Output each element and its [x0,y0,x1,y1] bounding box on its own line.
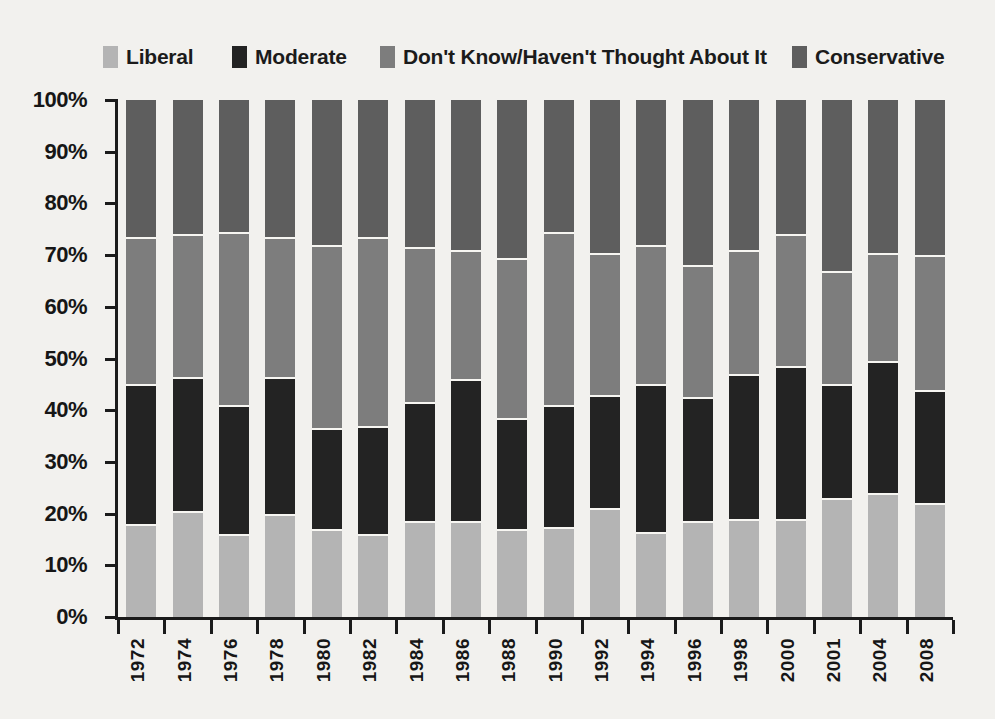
stacked-bar-2004 [868,100,898,617]
segment-moderate-2001 [822,384,852,498]
x-axis-tick [163,620,166,634]
y-axis-tick [105,616,118,619]
x-tick-label-2004: 2004 [869,638,891,682]
y-tick-label: 70% [44,242,87,268]
legend-item-don-t-know-haven-t-thought-about-it: Don't Know/Haven't Thought About It [380,43,767,71]
y-tick-label: 100% [33,87,87,113]
y-axis-tick [105,461,118,464]
x-tick-label-2008: 2008 [916,638,938,682]
legend-label: Moderate [255,45,347,69]
y-axis-tick [105,202,118,205]
stacked-bar-1972 [126,100,156,617]
stacked-bar-1990 [544,100,574,617]
stacked-bar-1980 [312,100,342,617]
bar-slot-2001 [814,100,860,617]
bar-slot-1986 [443,100,489,617]
x-tick-label-1984: 1984 [406,638,428,682]
segment-liberal-1972 [126,524,156,617]
segment-moderate-1976 [219,405,249,534]
segment-don-t-know-1992 [590,253,620,395]
stacked-bar-2008 [915,100,945,617]
segment-liberal-1982 [358,534,388,617]
x-tick-label-1990: 1990 [545,638,567,682]
segment-conservative-1990 [544,100,574,232]
stacked-bar-1976 [219,100,249,617]
y-tick-label: 10% [44,552,87,578]
segment-don-t-know-2004 [868,253,898,362]
bar-slot-1972 [118,100,164,617]
segment-liberal-1996 [683,521,713,617]
segment-conservative-2000 [776,100,806,234]
segment-conservative-1986 [451,100,481,250]
segment-moderate-1980 [312,428,342,529]
x-tick-label-1996: 1996 [684,638,706,682]
x-axis-labels: 1972197419761978198019821984198619881990… [115,638,950,708]
legend-swatch-icon [232,46,247,68]
bar-slot-1992 [582,100,628,617]
segment-conservative-1994 [636,100,666,245]
stacked-bar-2001 [822,100,852,617]
legend-swatch-icon [380,46,395,68]
x-axis-tick [303,620,306,634]
bar-slot-2004 [860,100,906,617]
stacked-bar-2000 [776,100,806,617]
segment-moderate-1982 [358,426,388,535]
segment-don-t-know-1974 [173,234,203,376]
x-axis-tick [813,620,816,634]
segment-liberal-1976 [219,534,249,617]
bar-slot-1998 [721,100,767,617]
segment-liberal-1994 [636,532,666,617]
segment-liberal-1974 [173,511,203,617]
segment-conservative-1982 [358,100,388,237]
segment-don-t-know-2008 [915,255,945,389]
x-axis-tick [256,620,259,634]
bar-slot-1994 [628,100,674,617]
segment-moderate-2004 [868,361,898,493]
y-axis-tick [105,306,118,309]
x-axis-tick [117,620,120,634]
y-axis-labels: 100%90%80%70%60%50%40%30%20%10%0% [0,100,101,617]
x-axis-tick [442,620,445,634]
segment-conservative-1996 [683,100,713,265]
bar-slot-1984 [396,100,442,617]
stacked-bar-1994 [636,100,666,617]
segment-liberal-1988 [497,529,527,617]
segment-don-t-know-2001 [822,271,852,385]
x-axis-tick [488,620,491,634]
y-axis-tick [105,254,118,257]
segment-conservative-1984 [405,100,435,247]
segment-don-t-know-2000 [776,234,806,366]
bar-slot-1990 [536,100,582,617]
segment-liberal-1998 [729,519,759,617]
legend-item-moderate: Moderate [232,43,347,71]
segment-conservative-1974 [173,100,203,234]
x-axis-tick [766,620,769,634]
segment-moderate-1998 [729,374,759,519]
segment-moderate-1990 [544,405,574,526]
y-axis-tick [105,564,118,567]
x-tick-label-1992: 1992 [591,638,613,682]
x-axis-tick [627,620,630,634]
segment-conservative-1992 [590,100,620,253]
segment-don-t-know-1994 [636,245,666,385]
stacked-bar-1988 [497,100,527,617]
segment-don-t-know-1982 [358,237,388,426]
segment-moderate-1996 [683,397,713,521]
x-axis-tick [535,620,538,634]
y-tick-label: 80% [44,190,87,216]
stacked-bar-1974 [173,100,203,617]
y-tick-label: 50% [44,346,87,372]
y-axis-tick [105,358,118,361]
segment-liberal-1990 [544,527,574,617]
y-axis-tick [105,151,118,154]
segment-moderate-2008 [915,390,945,504]
x-tick-label-1986: 1986 [452,638,474,682]
legend-label: Liberal [126,45,193,69]
segment-conservative-1988 [497,100,527,258]
legend-item-liberal: Liberal [103,43,193,71]
legend-label: Conservative [815,45,945,69]
stacked-bar-1996 [683,100,713,617]
x-tick-label-1978: 1978 [266,638,288,682]
segment-don-t-know-1978 [265,237,295,377]
segment-moderate-1972 [126,384,156,524]
